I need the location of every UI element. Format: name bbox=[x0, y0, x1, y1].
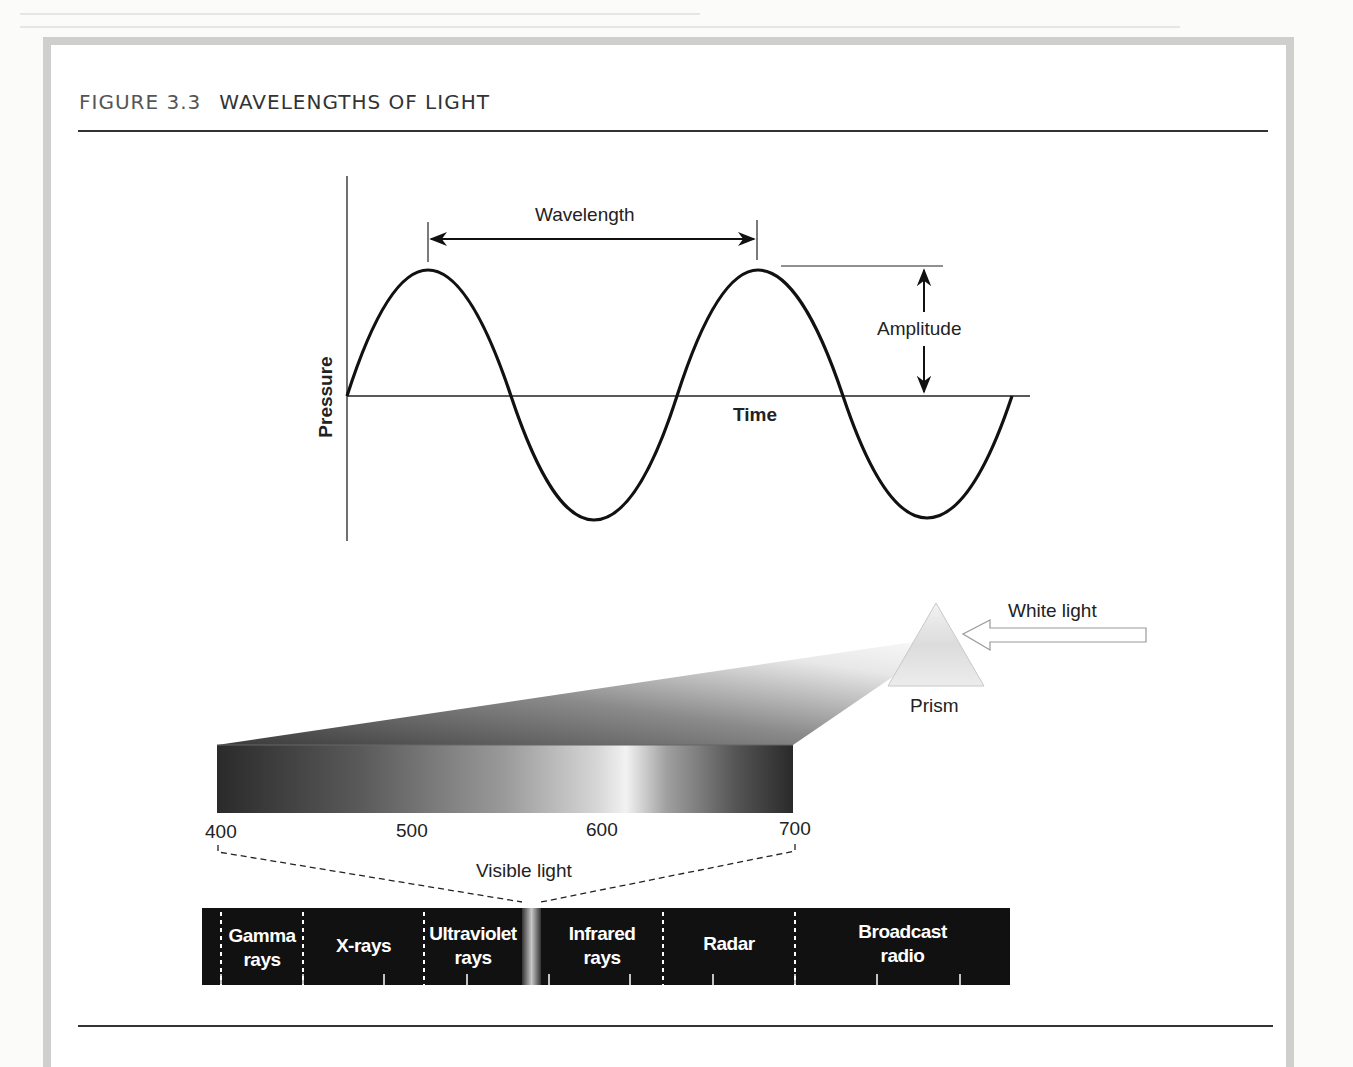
visible-light-label: Visible light bbox=[476, 860, 572, 882]
wavelength-label: Wavelength bbox=[535, 204, 635, 226]
band-x-rays: X-rays bbox=[304, 934, 423, 958]
visible-bracket-right bbox=[541, 844, 795, 902]
dispersed-beam bbox=[217, 638, 940, 745]
band-gamma-rays: Gammarays bbox=[222, 924, 302, 972]
tick-700: 700 bbox=[779, 818, 811, 840]
tick-400: 400 bbox=[205, 821, 237, 843]
band-ultraviolet-rays: Ultravioletrays bbox=[424, 922, 522, 970]
time-axis-label: Time bbox=[733, 404, 777, 426]
band-broadcast-radio: Broadcastradio bbox=[795, 920, 1010, 968]
tick-600: 600 bbox=[586, 819, 618, 841]
tick-500: 500 bbox=[396, 820, 428, 842]
prism-label: Prism bbox=[910, 695, 959, 717]
prism-diagram bbox=[217, 603, 1146, 745]
sine-wave bbox=[347, 270, 1012, 520]
white-light-arrow-icon bbox=[963, 620, 1146, 650]
pressure-axis-label: Pressure bbox=[315, 352, 337, 442]
white-light-label: White light bbox=[1008, 600, 1097, 622]
band-radar: Radar bbox=[663, 932, 795, 956]
wave-diagram bbox=[347, 176, 1030, 541]
band-infrared-rays: Infraredrays bbox=[541, 922, 663, 970]
visible-spectrum-bar bbox=[217, 745, 793, 813]
amplitude-label: Amplitude bbox=[875, 318, 964, 340]
visible-slice bbox=[522, 908, 541, 985]
